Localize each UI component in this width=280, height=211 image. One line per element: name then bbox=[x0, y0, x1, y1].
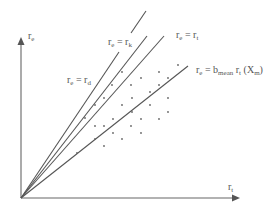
label-bmean: re = bmean rt (Xm) bbox=[196, 64, 263, 77]
x-axis-arrow-icon bbox=[232, 195, 240, 202]
y-axis-arrow-icon bbox=[18, 37, 25, 45]
axes bbox=[18, 37, 241, 202]
x-axis-label: rt bbox=[228, 181, 233, 194]
label-rd: re = rd bbox=[67, 74, 91, 87]
y-axis-label: re bbox=[28, 30, 34, 43]
line-bmean bbox=[21, 66, 188, 198]
regression-lines bbox=[21, 11, 188, 198]
label-rk: re = rk bbox=[108, 36, 132, 49]
regression-lines-diagram: re rt bbox=[0, 0, 280, 211]
line-rt bbox=[21, 36, 164, 198]
label-rt: re = rt bbox=[176, 29, 198, 42]
line-rk bbox=[21, 36, 147, 198]
line-rd-extension bbox=[131, 11, 146, 33]
